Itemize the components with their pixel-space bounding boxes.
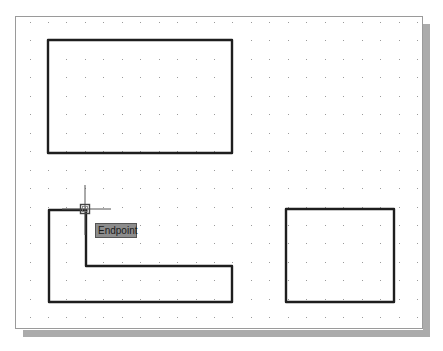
drawn-shapes bbox=[48, 40, 394, 302]
l-shape[interactable] bbox=[49, 210, 232, 302]
rectangle-bottom-right[interactable] bbox=[286, 209, 394, 302]
grid-dots bbox=[30, 22, 418, 318]
osnap-endpoint-tooltip: Endpoint bbox=[95, 223, 137, 238]
cad-viewport[interactable]: Endpoint bbox=[0, 0, 443, 351]
drawing-canvas[interactable] bbox=[0, 0, 443, 351]
